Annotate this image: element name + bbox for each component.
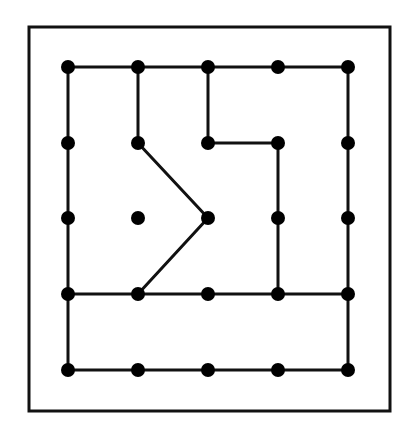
peg-dot: [61, 136, 75, 150]
peg-dot: [341, 363, 355, 377]
peg-dot: [201, 60, 215, 74]
segment: [138, 218, 208, 294]
peg-dot: [61, 211, 75, 225]
peg-dot: [341, 60, 355, 74]
peg-dot: [271, 60, 285, 74]
peg-dot: [271, 211, 285, 225]
peg-dot: [131, 287, 145, 301]
peg-dot: [61, 363, 75, 377]
peg-dot: [341, 211, 355, 225]
peg-dot: [131, 211, 145, 225]
peg-dot: [271, 363, 285, 377]
peg-dot: [341, 287, 355, 301]
peg-dot: [131, 136, 145, 150]
peg-dot: [61, 287, 75, 301]
geoboard-diagram: [0, 0, 406, 441]
peg-dot: [131, 60, 145, 74]
peg-dot: [61, 60, 75, 74]
peg-dot: [201, 211, 215, 225]
peg-dot: [131, 363, 145, 377]
peg-dot: [271, 287, 285, 301]
peg-dot: [201, 363, 215, 377]
peg-dot: [271, 136, 285, 150]
segment: [138, 143, 208, 218]
peg-dot: [341, 136, 355, 150]
peg-dot: [201, 287, 215, 301]
peg-dot: [201, 136, 215, 150]
